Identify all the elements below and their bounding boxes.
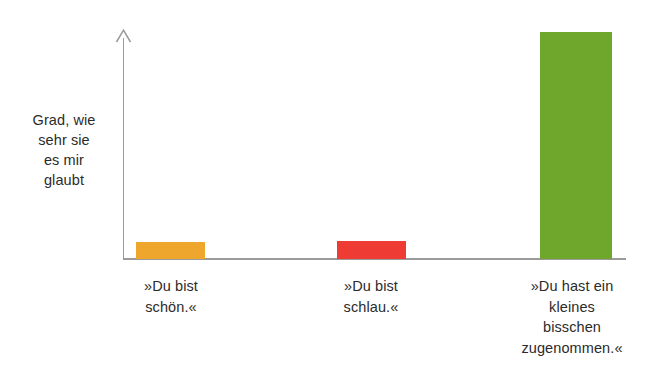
- category-label-1: »Du bist schlau.«: [300, 276, 442, 317]
- category-label-2-line-3: bisschen: [487, 317, 657, 338]
- category-label-2-line-1: »Du hast ein: [487, 276, 657, 297]
- category-label-2-line-4: zugenommen.«: [487, 338, 657, 359]
- category-label-2-line-2: kleines: [487, 297, 657, 318]
- bar-chart: Grad, wie sehr sie es mir glaubt »Du bis…: [0, 0, 657, 370]
- category-label-2: »Du hast ein kleines bisschen zugenommen…: [487, 276, 657, 358]
- bar-du-hast-ein-kleines-bisschen-zugenommen: [540, 32, 612, 259]
- category-label-1-line-2: schlau.«: [300, 297, 442, 318]
- category-label-0-line-1: »Du bist: [100, 276, 242, 297]
- category-label-0: »Du bist schön.«: [100, 276, 242, 317]
- plot-area: [0, 0, 657, 259]
- category-label-0-line-2: schön.«: [100, 297, 242, 318]
- bar-du-bist-schoen: [136, 242, 205, 259]
- category-label-1-line-1: »Du bist: [300, 276, 442, 297]
- bar-du-bist-schlau: [337, 241, 406, 259]
